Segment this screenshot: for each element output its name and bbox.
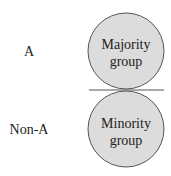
row-label-a: A bbox=[24, 44, 35, 59]
majority-line2: group bbox=[110, 54, 143, 69]
diagram-canvas: A Majority group Non-A Minority group bbox=[0, 0, 171, 176]
row-label-non-a: Non-A bbox=[10, 122, 50, 137]
minority-line1: Minority bbox=[101, 116, 151, 131]
minority-line2: group bbox=[110, 133, 143, 148]
majority-line1: Majority bbox=[102, 37, 151, 52]
